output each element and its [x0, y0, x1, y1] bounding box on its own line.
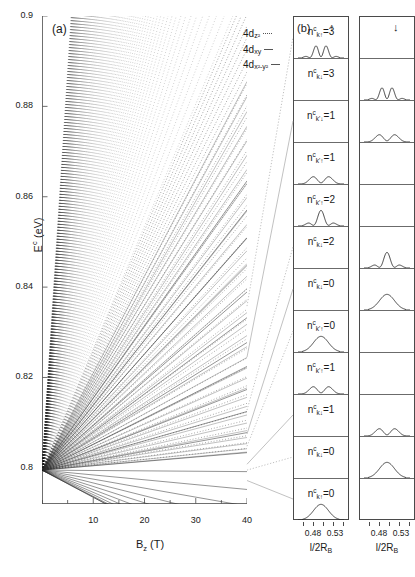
panel-b: nck↑=3nck↓=3nck'↓=1nck'↑=1nck'↑=2nck↓=2n… — [293, 16, 415, 536]
panel-b-cell: nck'↑=2 — [294, 185, 348, 227]
wavefunction-plot — [360, 83, 414, 100]
panel-b-cell — [360, 311, 414, 353]
label-value: =0 — [323, 488, 334, 499]
legend-line-swatch — [263, 33, 272, 34]
label-subscript-k-spin: k'↑ — [316, 367, 324, 374]
panel-b-tick-label: 0.53 — [323, 528, 347, 538]
label-subscript-k-spin: k'↓ — [316, 115, 324, 122]
wavefunction-curve — [298, 45, 344, 57]
energy-level-line — [42, 264, 247, 471]
energy-level-line — [42, 324, 247, 470]
spin-up-arrow-icon: ↑ — [329, 21, 335, 33]
panel-b-x-axis-label-main: l/2R — [376, 542, 394, 553]
panel-b-letter: (b) — [297, 22, 310, 34]
wavefunction-curve — [298, 176, 344, 183]
label-value: =1 — [324, 362, 335, 373]
wavefunction-curve — [298, 336, 344, 352]
panel-b-tick — [369, 522, 370, 526]
wavefunction-plot — [294, 335, 348, 352]
panel-b-tick — [343, 522, 344, 526]
label-value: =1 — [324, 152, 335, 163]
label-value: =1 — [323, 404, 334, 415]
panel-b-cell — [360, 17, 414, 59]
panel-b-tick-label: 0.48 — [367, 528, 391, 538]
energy-level-line — [42, 117, 247, 470]
panel-b-cell: nck↓=1 — [294, 395, 348, 437]
energy-level-line — [42, 38, 247, 471]
label-subscript-k-spin: k'↑ — [316, 199, 324, 206]
quantum-number-label: nck↓=0 — [294, 443, 348, 460]
wavefunction-curve — [298, 210, 344, 226]
panel-b-tick-label: 0.48 — [301, 528, 325, 538]
panel-b-tick — [333, 522, 334, 526]
wavefunction-plot — [360, 251, 414, 268]
energy-level-line — [42, 386, 247, 470]
legend-label-sub: x²-y² — [254, 63, 268, 70]
energy-level-line — [42, 289, 247, 470]
quantum-number-label: nck'↑=1 — [294, 359, 348, 376]
label-subscript-k-spin: k'↑ — [316, 325, 324, 332]
panel-b-x-axis-label: l/2RB — [293, 542, 349, 554]
x-tick-label: 30 — [181, 516, 211, 525]
x-axis-label-unit: (T) — [147, 538, 164, 550]
panel-b-tick — [313, 522, 314, 526]
quantum-number-label: nck'↑=0 — [294, 317, 348, 334]
panel-b-column-spin-up: nck↑=3nck↓=3nck'↓=1nck'↑=1nck'↑=2nck↓=2n… — [293, 16, 349, 520]
panel-b-cell — [360, 437, 414, 479]
panel-b-cell: nck'↑=1 — [294, 143, 348, 185]
panel-b-cell — [360, 269, 414, 311]
energy-level-line — [42, 224, 247, 470]
label-value: =0 — [323, 446, 334, 457]
quantum-number-label: nck'↑=1 — [294, 149, 348, 166]
wavefunction-plot — [360, 461, 414, 478]
panel-b-column-spin-down — [359, 16, 415, 520]
wavefunction-plot — [360, 125, 414, 142]
panel-b-x-axis-label-sub: B — [394, 547, 399, 554]
y-tick-label: 0.84 — [0, 282, 33, 291]
energy-level-line — [42, 343, 247, 471]
quantum-number-label: nck'↑=2 — [294, 191, 348, 208]
wavefunction-curve — [364, 134, 410, 141]
panel-b-tick-label: 0.53 — [389, 528, 413, 538]
panel-b-cell — [360, 395, 414, 437]
landau-level-lines — [42, 16, 247, 504]
panel-b-cell: nck'↓=1 — [294, 101, 348, 143]
panel-b-cell: nck'↑=1 — [294, 353, 348, 395]
x-axis-label: Bz (T) — [70, 538, 230, 553]
quantum-number-label: nck'↓=1 — [294, 107, 348, 124]
quantum-number-label: nck↓=3 — [294, 65, 348, 82]
legend-label-main: 4d — [243, 44, 254, 55]
wavefunction-plot — [294, 209, 348, 226]
panel-b-cell — [360, 227, 414, 269]
label-value: =0 — [324, 320, 335, 331]
panel-b-cell — [360, 185, 414, 227]
figure-root: Ec (eV) 0.90.880.860.840.820.8 10203040 … — [0, 0, 415, 577]
energy-level-line — [42, 336, 247, 471]
panel-b-cell — [360, 143, 414, 185]
label-value: =3 — [323, 68, 334, 79]
panel-b-cell — [360, 353, 414, 395]
wavefunction-plot — [360, 293, 414, 310]
wavefunction-curve — [298, 386, 344, 393]
panel-b-x-axis-label-main: l/2R — [310, 542, 328, 553]
panel-b-tick — [323, 522, 324, 526]
x-tick-label: 20 — [130, 516, 160, 525]
label-subscript-k-spin: k'↑ — [316, 157, 324, 164]
label-value: =1 — [324, 110, 335, 121]
panel-b-tick — [303, 522, 304, 526]
wavefunction-curve — [364, 428, 410, 435]
y-tick-label: 0.82 — [0, 372, 33, 381]
legend-label-main: 4d — [243, 59, 254, 70]
panel-b-cell: nck↓=2 — [294, 227, 348, 269]
panel-b-down-axis-ticks: 0.480.53l/2RB — [359, 522, 415, 532]
panel-b-cell — [360, 101, 414, 143]
panel-b-cell — [360, 59, 414, 101]
quantum-number-label: nck↓=0 — [294, 275, 348, 292]
wavefunction-curve — [364, 294, 410, 310]
legend-label-sub: z² — [254, 32, 260, 39]
y-tick-label: 0.88 — [0, 101, 33, 110]
wavefunction-plot — [294, 41, 348, 58]
panel-b-cell: nck↓=0 — [294, 437, 348, 479]
panel-a: Ec (eV) 0.90.880.860.840.820.8 10203040 … — [0, 0, 280, 577]
label-value: =0 — [323, 278, 334, 289]
